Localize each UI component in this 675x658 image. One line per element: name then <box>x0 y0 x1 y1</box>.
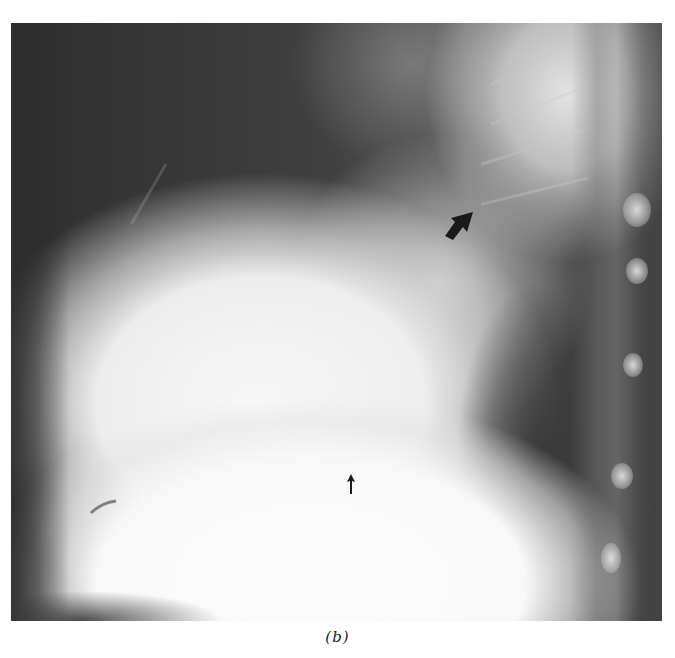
vertebra <box>626 258 648 284</box>
vertebra <box>601 543 621 573</box>
vertebra <box>611 463 633 489</box>
panel-label: (b) <box>0 628 675 646</box>
small-arrow-icon <box>346 473 356 495</box>
large-arrow-icon <box>441 208 481 243</box>
bottom-left-shadow <box>11 23 662 621</box>
vertebra <box>623 193 651 227</box>
vessel-shadow <box>86 493 126 523</box>
vertebra <box>623 353 643 377</box>
radiograph-image <box>11 23 662 621</box>
